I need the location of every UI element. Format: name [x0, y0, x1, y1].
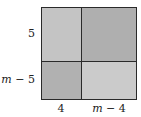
- cell-bottom-left: [42, 62, 82, 99]
- column-label-right: m − 4: [81, 103, 137, 115]
- area-model-square: [41, 7, 137, 100]
- cell-top-right: [82, 8, 136, 62]
- row-label-bottom: m − 5: [1, 74, 35, 86]
- row-label-bottom-text: − 5: [12, 73, 35, 86]
- column-label-right-variable: m: [92, 102, 102, 115]
- cell-bottom-right: [82, 62, 136, 99]
- column-label-left: 4: [41, 103, 81, 115]
- row-label-bottom-variable: m: [1, 73, 11, 86]
- cell-top-left: [42, 8, 82, 62]
- column-label-right-text: − 4: [103, 102, 126, 115]
- row-label-top: 5: [28, 28, 35, 40]
- column-label-left-text: 4: [58, 102, 65, 115]
- row-label-top-text: 5: [28, 27, 35, 40]
